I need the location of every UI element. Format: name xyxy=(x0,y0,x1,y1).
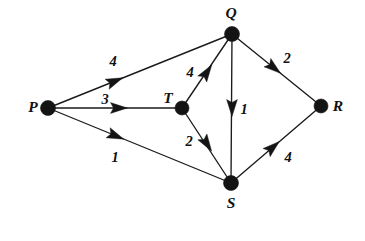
node-label-t: T xyxy=(163,90,172,106)
edge-weight-p-s: 1 xyxy=(111,150,118,165)
edge-weight-q-s: 1 xyxy=(240,102,247,117)
edge-weight-t-q: 4 xyxy=(186,65,193,80)
edge-weight-q-r: 2 xyxy=(283,51,290,66)
edge-p-s xyxy=(48,108,231,183)
edge-weight-t-s: 2 xyxy=(185,134,192,149)
edge-weight-p-t: 3 xyxy=(101,92,108,107)
node-label-p: P xyxy=(28,99,37,115)
graph-canvas xyxy=(0,0,365,241)
arrowhead-q-r xyxy=(264,58,284,77)
node-s xyxy=(224,176,239,191)
node-t xyxy=(175,101,189,115)
graph-figure: 43142124PQTRS xyxy=(0,0,365,241)
node-label-q: Q xyxy=(225,5,236,21)
node-p xyxy=(41,101,56,116)
arrowhead-p-s xyxy=(106,128,126,144)
node-label-s: S xyxy=(227,195,236,211)
node-q xyxy=(225,27,240,42)
arrowhead-t-q xyxy=(198,62,216,82)
node-r xyxy=(314,99,328,113)
arrowhead-p-q xyxy=(105,73,125,89)
node-label-r: R xyxy=(333,98,343,114)
edge-weight-p-q: 4 xyxy=(109,54,116,69)
edge-weight-s-r: 4 xyxy=(284,150,291,165)
